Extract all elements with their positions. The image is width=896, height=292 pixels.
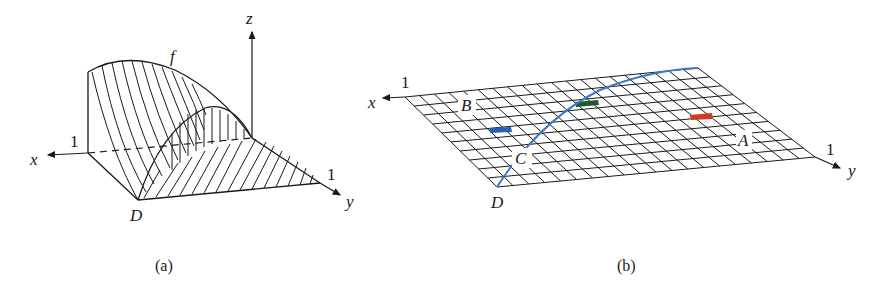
- x-tick-label-b: 1: [401, 73, 410, 92]
- panel-b: x 1 B C A 1 y D (b): [367, 68, 856, 275]
- x-tick-label: 1: [70, 132, 79, 151]
- x-axis-label: x: [29, 150, 38, 169]
- arch-curve: [138, 107, 252, 200]
- point-c-label: C: [515, 149, 527, 168]
- x-axis-arrow: [48, 153, 88, 155]
- x-axis-hidden: [88, 138, 252, 153]
- caption-b: (b): [617, 257, 636, 275]
- floor-hatching: [144, 139, 313, 198]
- figure-canvas: x 1 z f 1 y D (a) x 1 B C A 1 y D (b): [0, 0, 896, 292]
- panel-a: x 1 z f 1 y D (a): [29, 9, 354, 275]
- highlighted-cell-red: [690, 113, 713, 120]
- y-axis-arrow: [320, 183, 340, 195]
- y-tick-label-b: 1: [826, 140, 835, 159]
- y-tick-label: 1: [327, 165, 336, 184]
- y-axis-label: y: [344, 192, 354, 211]
- x-axis-label-b: x: [367, 93, 376, 112]
- point-a-label: A: [737, 131, 749, 150]
- z-axis-label: z: [245, 9, 253, 28]
- top-curve-f: [88, 60, 252, 138]
- domain-label: D: [129, 206, 143, 225]
- domain-edge-y: [138, 183, 320, 200]
- y-axis-label-b: y: [846, 161, 856, 180]
- inner-hatching: [172, 108, 244, 170]
- caption-a: (a): [155, 257, 173, 275]
- function-label: f: [170, 47, 177, 66]
- x-axis-arrow-b: [383, 97, 405, 98]
- point-b-label: B: [461, 96, 472, 115]
- highlighted-cell-blue: [489, 127, 512, 133]
- domain-edge-x: [88, 153, 138, 200]
- domain-label-b: D: [490, 193, 504, 212]
- domain-edge-diag: [252, 138, 320, 183]
